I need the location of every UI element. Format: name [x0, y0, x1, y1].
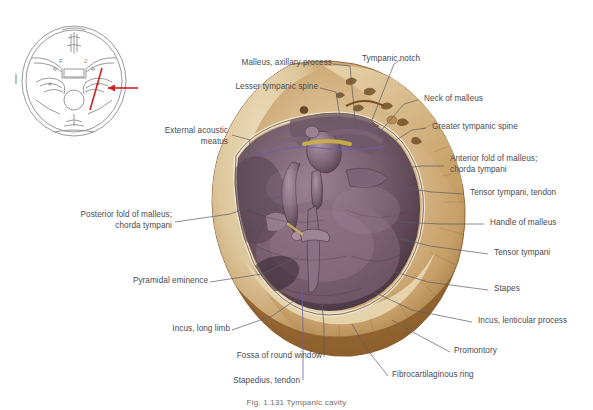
label-pyramidal-eminence: Pyramidal eminence	[96, 276, 208, 287]
label-incus-long-limb: Incus, long limb	[146, 324, 230, 335]
label-tensor-tympani-tendon: Tensor tympani, tendon	[470, 188, 592, 199]
mucosa-highlight-right	[332, 186, 400, 234]
tympanic-cavity-svg	[196, 60, 476, 370]
label-stapes: Stapes	[494, 284, 554, 295]
label-tympanic-notch: Tympanic notch	[362, 54, 482, 65]
label-handle-of-malleus: Handle of malleus	[490, 218, 593, 229]
skull-base-inset: F 2	[14, 22, 142, 140]
neck-of-malleus-shape	[311, 170, 322, 210]
label-fibrocartilaginous-ring: Fibrocartilaginous ring	[392, 370, 522, 381]
tympanic-cavity-illustration	[196, 60, 476, 370]
label-lesser-tympanic-spine: Lesser tympanic spine	[182, 82, 318, 93]
handle-of-malleus-shape	[307, 206, 319, 292]
label-malleus-axillary-process: Malleus, axillary process	[180, 58, 332, 69]
label-promontory: Promontory	[454, 346, 534, 357]
label-greater-tympanic-spine: Greater tympanic spine	[432, 122, 582, 133]
label-neck-of-malleus: Neck of malleus	[424, 94, 544, 105]
figure-page: F 2	[0, 0, 593, 410]
label-external-acoustic-meatus: External acoustic meatus	[124, 126, 228, 147]
lesser-tympanic-spine-shape	[300, 107, 308, 114]
label-anterior-fold-of-malleus: Anterior fold of malleus; chorda tympani	[450, 154, 590, 175]
view-direction-arrow	[108, 85, 138, 92]
label-incus-lenticular-process: Incus, lenticular process	[478, 316, 593, 327]
inset-mark-right: 2	[84, 58, 88, 64]
label-posterior-fold-of-malleus: Posterior fold of malleus; chorda tympan…	[34, 210, 172, 231]
figure-caption: Fig. 1.131 Tympanic cavity	[0, 398, 593, 407]
skull-base-schematic-svg: F 2	[14, 22, 142, 140]
inset-mark-left: F	[59, 58, 63, 64]
label-tensor-tympani: Tensor tympani	[494, 248, 590, 259]
greater-tympanic-spine-shape	[387, 116, 397, 124]
mucosa-highlight-left	[266, 170, 310, 206]
label-stapedius-tendon: Stapedius, tendon	[198, 376, 300, 387]
label-fossa-of-round-window: Fossa of round window	[196, 351, 322, 362]
section-plane-line	[90, 68, 102, 110]
malleus-axillary-process-shape	[305, 126, 319, 138]
